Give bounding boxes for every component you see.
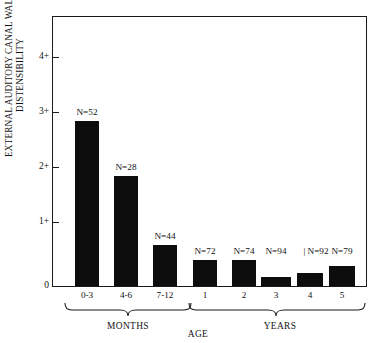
- group-label-years: YEARS: [240, 322, 320, 331]
- bar-label-7-12-months: N=44: [140, 232, 190, 241]
- x-tick-label-5-years: 5: [317, 291, 367, 300]
- y-tick-label-0: 0: [16, 281, 49, 291]
- bar-5-years: [329, 266, 355, 286]
- bar-4-6-months: [114, 176, 138, 286]
- bar-2-years: [232, 260, 256, 286]
- y-tick-label-4: 4+: [16, 52, 49, 62]
- bar-label-5-years: N=79: [317, 247, 367, 256]
- bar-label-0-3-months: N=52: [62, 108, 112, 117]
- y-tick-4: [52, 57, 59, 58]
- x-axis-title: AGE: [168, 330, 228, 339]
- y-tick-label-1: 1+: [16, 217, 49, 227]
- bar-1-year: [193, 260, 217, 286]
- bar-0-3-months: [75, 121, 99, 286]
- bar-3-years: [261, 277, 291, 286]
- y-axis-title-line-1: EXTERNAL AUDITORY CANAL WALL: [4, 0, 15, 190]
- y-tick-2: [52, 167, 59, 168]
- bar-7-12-months: [153, 245, 177, 286]
- years-brace-icon: [186, 302, 368, 317]
- y-tick-label-3: 3+: [16, 107, 49, 117]
- bar-4-years: [297, 273, 323, 286]
- y-tick-1: [52, 222, 59, 223]
- group-label-months: MONTHS: [78, 322, 178, 331]
- y-tick-label-2: 2+: [16, 162, 49, 172]
- months-brace-icon: [62, 302, 194, 317]
- chart-figure: EXTERNAL AUDITORY CANAL WALL DISTENSIBIL…: [0, 0, 378, 343]
- y-tick-3: [52, 112, 59, 113]
- bar-label-4-6-months: N=28: [101, 163, 151, 172]
